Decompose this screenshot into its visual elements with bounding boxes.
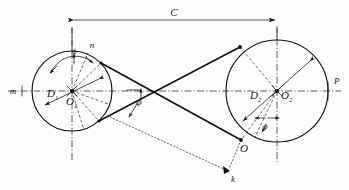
angle-arrow-small-right xyxy=(86,57,93,63)
construction-lines-to-k xyxy=(110,117,241,174)
label-center-large: O xyxy=(281,89,289,101)
label-point-k: k xyxy=(231,174,236,184)
label-point-p: P xyxy=(333,76,340,86)
diagram-canvas: C m n D 1 O 1 D 2 O 2 P O k xyxy=(0,0,349,190)
radius-construction-small-c xyxy=(72,91,108,104)
k-arrowhead xyxy=(223,166,230,174)
angle-arrow-small-left xyxy=(50,66,57,73)
label-angle-phi-center: ϕ xyxy=(136,95,142,107)
label-diameter-large: D xyxy=(249,89,258,101)
label-center-small-subscript: 1 xyxy=(74,102,77,109)
tangent-point-upper-small xyxy=(99,61,102,64)
dotted-line-left-to-k xyxy=(110,117,226,170)
label-point-n: n xyxy=(90,40,95,50)
label-diameter-small: D xyxy=(46,87,55,99)
tangent-point-upper-large xyxy=(238,45,242,49)
label-center-large-subscript: 2 xyxy=(289,96,293,103)
label-point-o: O xyxy=(240,142,248,154)
label-diameter-small-group: D 1 xyxy=(46,87,58,101)
label-angle-phi-small: ϕ xyxy=(72,46,77,56)
label-center-distance: C xyxy=(170,6,178,18)
belt-line-lower-left-to-upper-right xyxy=(99,47,240,121)
tangent-point-lower-small xyxy=(97,119,100,122)
label-angle-phi-large: ϕ xyxy=(263,121,268,131)
pulley-diagram-figure: C m n D 1 O 1 D 2 O 2 P O k xyxy=(0,0,349,190)
label-diameter-small-subscript: 1 xyxy=(55,94,58,101)
label-center-small: O xyxy=(66,95,74,107)
label-diameter-large-subscript: 2 xyxy=(258,96,262,103)
radius-to-upper-tangent-large xyxy=(240,47,277,91)
large-pulley-radii xyxy=(240,47,277,140)
belt-line-upper-left-to-lower-right xyxy=(101,63,241,140)
center-distance-dimension xyxy=(72,20,277,52)
label-center-small-group: O 1 xyxy=(66,95,77,109)
label-point-m: m xyxy=(10,86,17,96)
